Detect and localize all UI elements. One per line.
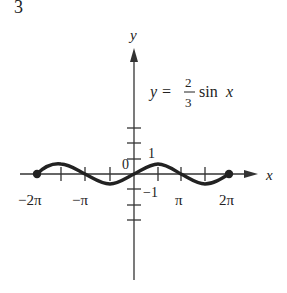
x-axis-arrow-icon — [244, 170, 258, 178]
x-axis-label: x — [265, 167, 273, 183]
origin-label: 0 — [122, 157, 129, 172]
y-axis-arrow-icon — [130, 48, 138, 62]
equation-label: y = 2 3 sin x — [148, 75, 233, 110]
x-tick-label-pi: π — [175, 192, 183, 208]
y-tick-label-neg1: −1 — [143, 185, 158, 200]
svg-text:3: 3 — [185, 95, 192, 110]
endpoint-right — [225, 170, 233, 178]
svg-text:2: 2 — [185, 75, 192, 90]
x-tick-label-neg2pi: −2π — [18, 192, 42, 208]
problem-number: 3 — [14, 0, 23, 17]
svg-text:x: x — [225, 83, 233, 100]
svg-text:sin: sin — [199, 83, 218, 100]
x-tick-label-2pi: 2π — [219, 192, 235, 208]
y-tick-label-1: 1 — [148, 146, 155, 161]
graph: 3 y x 0 1 −1 −2π −π π 2π y = 2 3 — [0, 0, 287, 293]
y-axis-label: y — [128, 27, 137, 43]
svg-text:y =: y = — [148, 83, 172, 101]
endpoint-left — [33, 170, 41, 178]
x-tick-label-negpi: −π — [72, 192, 88, 208]
